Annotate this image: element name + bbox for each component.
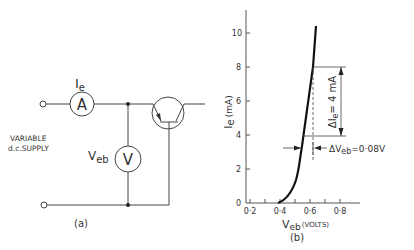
ie-veb-curve bbox=[278, 26, 316, 203]
circuit-diagram: A Ie V Veb VARIABLE d.c.SUPPLY (a) bbox=[8, 76, 205, 229]
svg-text:0·6: 0·6 bbox=[304, 207, 317, 216]
x-axis-label: Veb(VOLTS) bbox=[282, 218, 329, 232]
delta-ie-label: ΔIe= 4 mA bbox=[327, 76, 340, 129]
svg-text:8: 8 bbox=[236, 63, 241, 72]
caption-a: (a) bbox=[74, 218, 88, 229]
y-tick-labels: 0 2 4 6 8 10 bbox=[232, 29, 242, 208]
arrow-left-icon bbox=[314, 146, 321, 151]
ammeter-symbol: A bbox=[77, 96, 88, 114]
top-terminal bbox=[40, 101, 46, 107]
arrow-up-icon bbox=[339, 67, 344, 75]
supply-label: VARIABLE bbox=[10, 134, 47, 143]
x-tick-labels: 0·2 0·4 0·6 0·8 bbox=[244, 207, 347, 216]
ammeter-label: Ie bbox=[75, 76, 85, 93]
figure: A Ie V Veb VARIABLE d.c.SUPPLY (a) bbox=[0, 0, 414, 250]
svg-text:2: 2 bbox=[236, 165, 241, 174]
bottom-terminal bbox=[41, 202, 47, 208]
svg-text:10: 10 bbox=[232, 29, 242, 38]
svg-text:6: 6 bbox=[236, 97, 241, 106]
y-ticks bbox=[246, 33, 250, 169]
voltmeter-label: Veb bbox=[88, 149, 109, 165]
junction-dot bbox=[126, 203, 130, 207]
svg-text:4: 4 bbox=[236, 131, 241, 140]
svg-text:0: 0 bbox=[236, 199, 241, 208]
x-ticks bbox=[250, 199, 340, 203]
arrow-right-icon bbox=[294, 146, 301, 151]
transistor-icon bbox=[152, 97, 205, 205]
svg-text:0·8: 0·8 bbox=[334, 207, 347, 216]
svg-text:0·2: 0·2 bbox=[244, 207, 257, 216]
voltmeter-symbol: V bbox=[123, 151, 134, 169]
delta-veb-label: ΔVeb=0·08V bbox=[329, 144, 386, 156]
characteristic-graph: 0 2 4 6 8 10 0·2 0·4 0·6 0·8 Ie(mA) Veb(… bbox=[222, 10, 386, 243]
supply-label: d.c.SUPPLY bbox=[8, 144, 49, 153]
caption-b: (b) bbox=[290, 232, 304, 243]
y-axis-label: Ie(mA) bbox=[222, 95, 236, 128]
svg-text:0·4: 0·4 bbox=[274, 207, 287, 216]
arrow-down-icon bbox=[339, 128, 344, 136]
